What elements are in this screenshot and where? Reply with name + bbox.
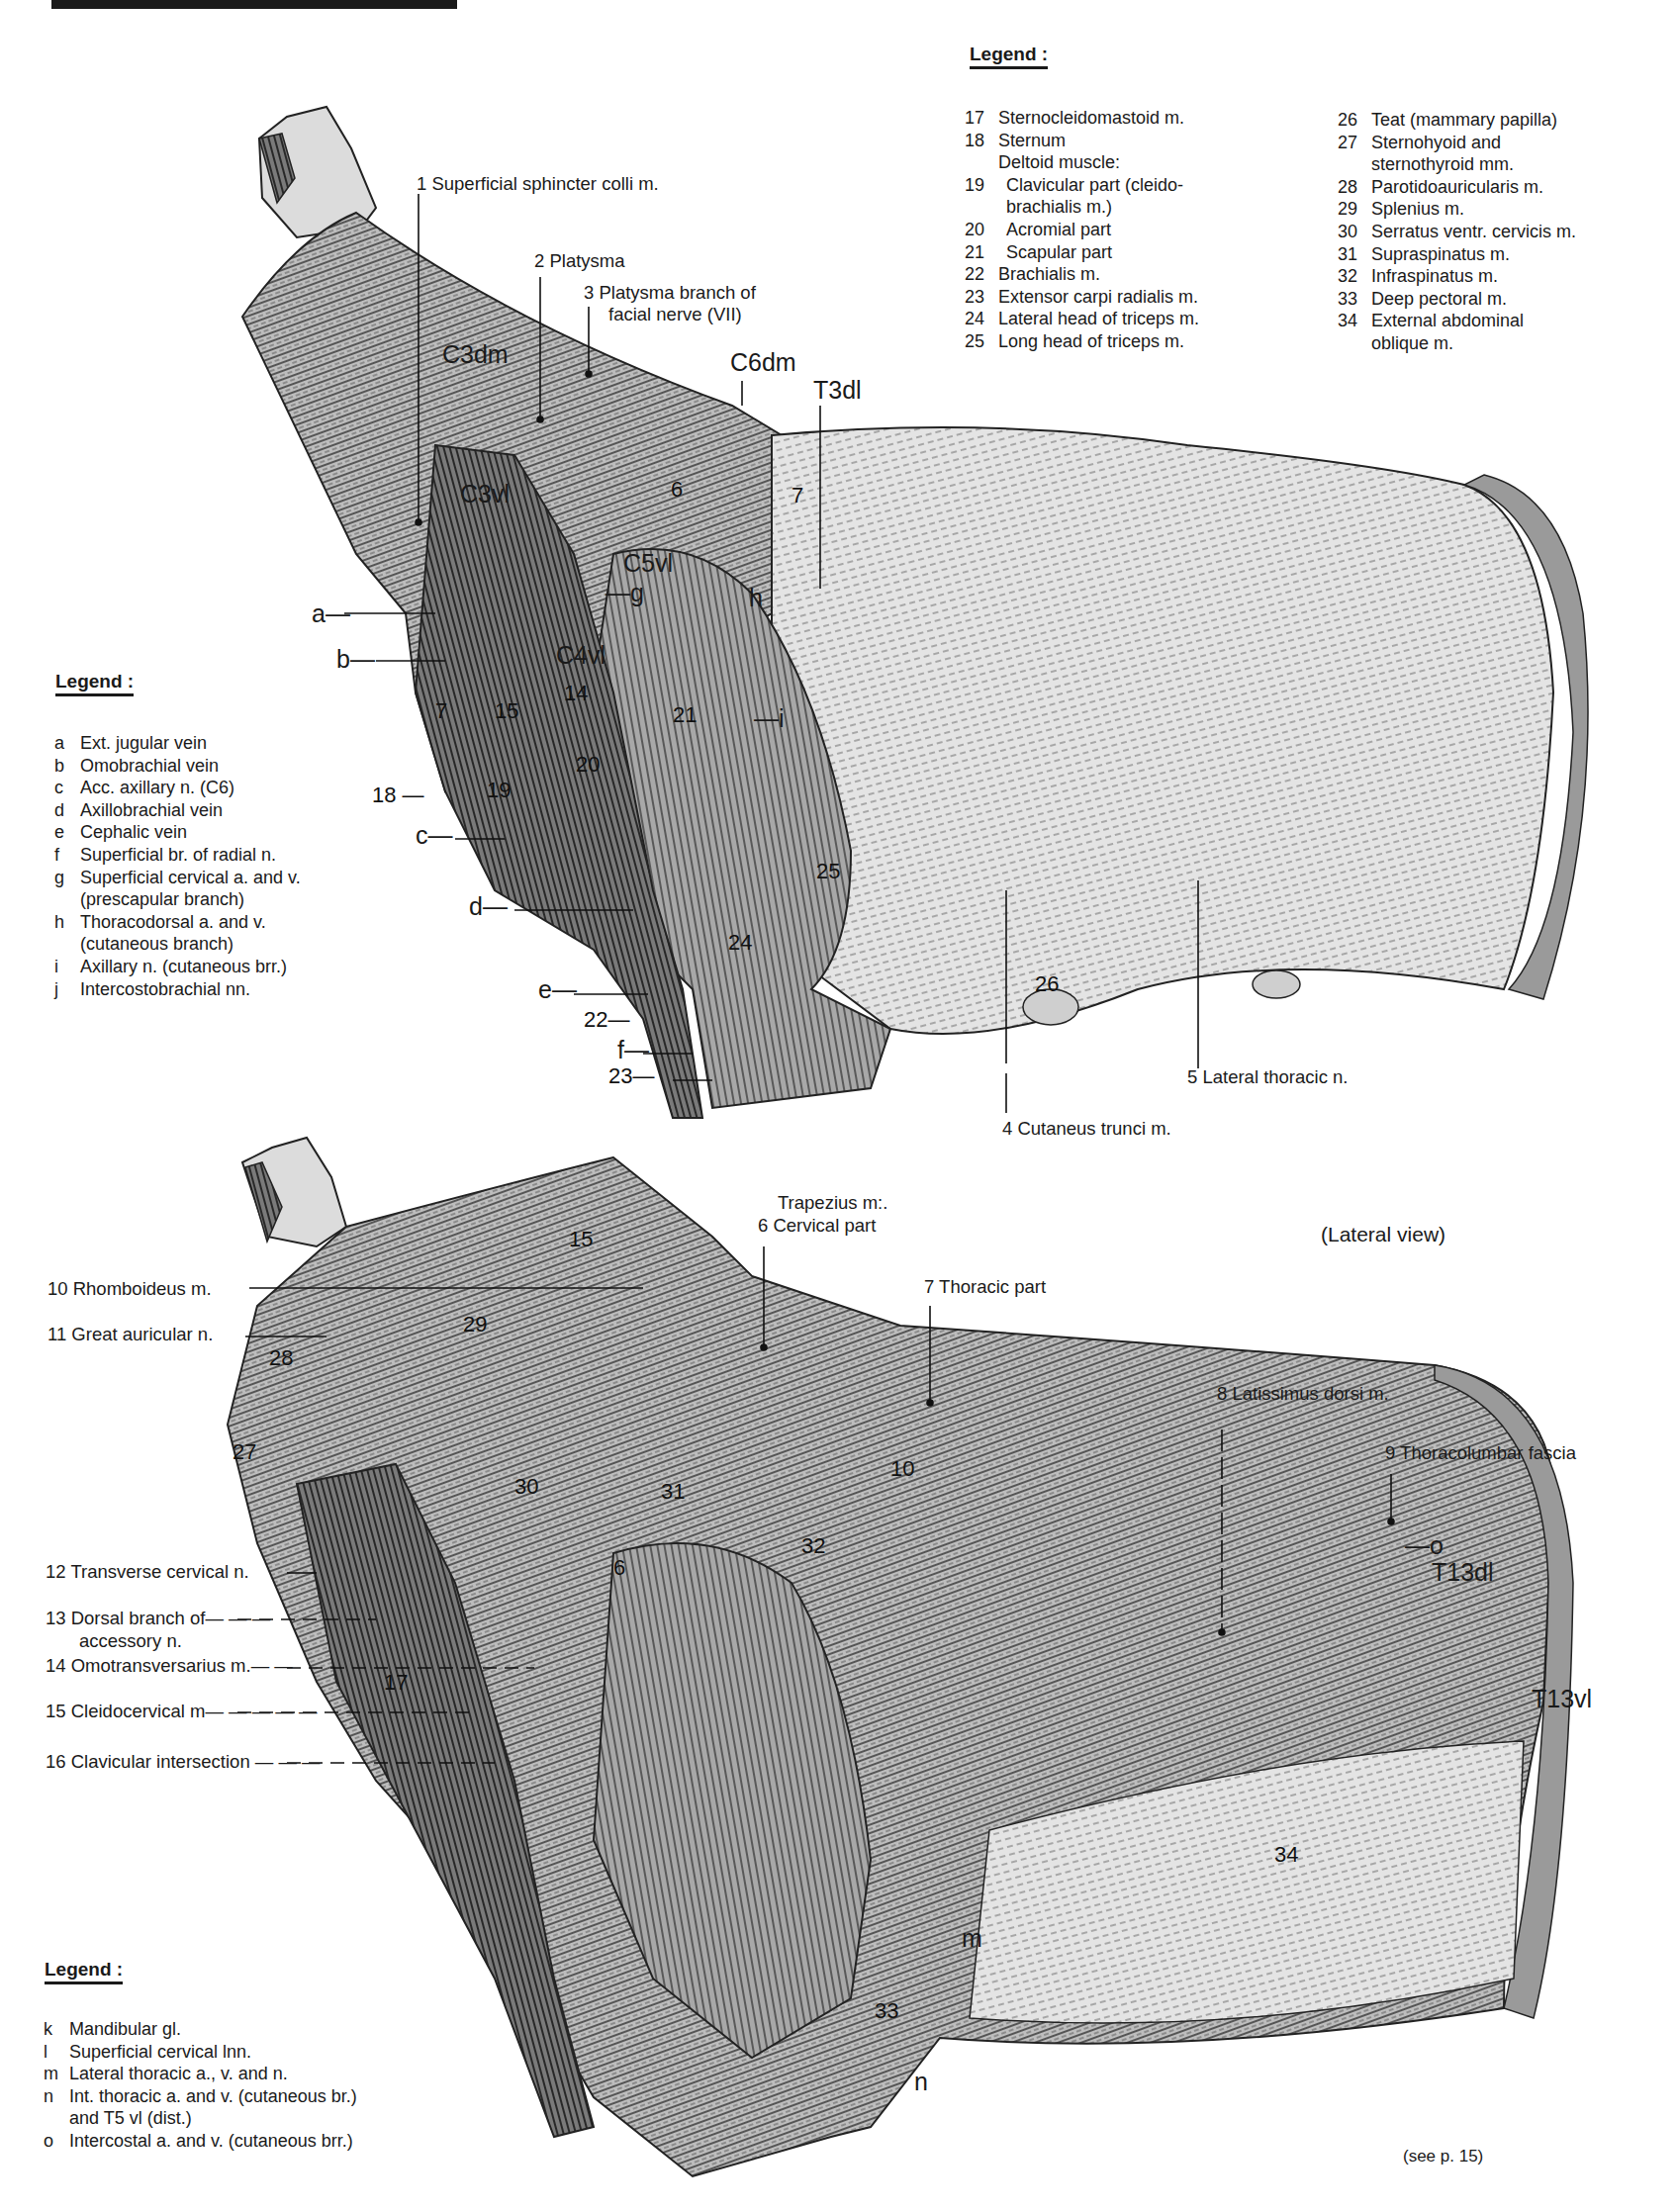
label-e: e— — [538, 975, 577, 1004]
legend-key — [1338, 332, 1371, 355]
legend-text: Cephalic vein — [80, 821, 187, 844]
label-13a: 13 Dorsal branch of— — — — [46, 1608, 270, 1629]
legend-text: (prescapular branch) — [80, 888, 244, 911]
legend-key: 26 — [1338, 109, 1371, 132]
label-19: 19 — [487, 778, 511, 803]
legend-text: External abdominal — [1371, 310, 1524, 332]
legend-key: d — [54, 799, 80, 822]
legend-glands: kMandibular gl. lSuperficial cervical ln… — [44, 2018, 357, 2153]
legend-text: Serratus ventr. cervicis m. — [1371, 221, 1576, 243]
label-6-fig2: 6 — [613, 1555, 625, 1581]
label-c3dm: C3dm — [442, 340, 509, 369]
legend-key: 31 — [1338, 243, 1371, 266]
legend-heading-glands: Legend : — [45, 1959, 123, 1984]
label-25: 25 — [816, 859, 840, 884]
label-17-fig2: 17 — [384, 1670, 408, 1696]
legend-key: 22 — [965, 263, 998, 286]
legend-text: (cutaneous branch) — [80, 933, 233, 956]
label-t3dl: T3dl — [813, 376, 862, 405]
label-3a: 3 Platysma branch of — [584, 282, 756, 304]
label-15-fig2: 15 — [569, 1227, 593, 1252]
legend-key — [54, 933, 80, 956]
legend-text: Clavicular part (cleido- — [998, 174, 1183, 197]
legend-text: Lateral thoracic a., v. and n. — [69, 2063, 288, 2085]
label-g: —g — [606, 579, 644, 607]
legend-key: i — [54, 956, 80, 978]
label-m: m — [962, 1924, 982, 1953]
legend-text: Deltoid muscle: — [998, 151, 1120, 174]
label-6: 6 — [671, 477, 683, 503]
label-17: 7 — [435, 698, 447, 724]
label-a: a— — [312, 599, 350, 628]
label-4: 4 Cutaneus trunci m. — [1002, 1118, 1171, 1140]
label-15: 15 Cleidocervical m— — — — — — [46, 1701, 317, 1722]
label-6-cervical-part: 6 Cervical part — [758, 1215, 876, 1237]
legend-text: Parotidoauricularis m. — [1371, 176, 1543, 199]
label-24: 24 — [728, 930, 752, 956]
label-o: —o — [1405, 1531, 1444, 1560]
legend-text: Superficial br. of radial n. — [80, 844, 276, 867]
label-3b: facial nerve (VII) — [608, 304, 742, 325]
label-11: 11 Great auricular n. — [47, 1324, 213, 1345]
label-c6dm: C6dm — [730, 348, 796, 377]
legend-key: k — [44, 2018, 69, 2041]
label-t13vl: T13vl — [1532, 1685, 1592, 1713]
legend-text: Lateral head of triceps m. — [998, 308, 1199, 330]
legend-heading-vessels: Legend : — [55, 671, 134, 696]
legend-key: 25 — [965, 330, 998, 353]
legend-key: 17 — [965, 107, 998, 130]
label-16: 16 Clavicular intersection — — — — [46, 1751, 321, 1773]
legend-text: and T5 vl (dist.) — [69, 2107, 192, 2130]
label-27: 27 — [233, 1439, 256, 1465]
legend-key — [54, 888, 80, 911]
label-f: f— — [617, 1036, 649, 1064]
label-c3vl: C3vl — [460, 480, 510, 508]
legend-text: Brachialis m. — [998, 263, 1100, 286]
legend-key: 24 — [965, 308, 998, 330]
legend-text: Thoracodorsal a. and v. — [80, 911, 266, 934]
legend-key: 18 — [965, 130, 998, 152]
label-33: 33 — [875, 1998, 898, 2024]
legend-key — [44, 2107, 69, 2130]
legend-key — [965, 151, 998, 174]
label-23: 23— — [608, 1063, 654, 1089]
label-d: d— — [469, 892, 508, 921]
legend-key: 33 — [1338, 288, 1371, 311]
legend-key: 20 — [965, 219, 998, 241]
legend-key: e — [54, 821, 80, 844]
legend-text: Sternohyoid and — [1371, 132, 1501, 154]
label-32: 32 — [801, 1533, 825, 1559]
label-t13dl: T13dl — [1432, 1558, 1494, 1587]
legend-muscles-col1: 17Sternocleidomastoid m. 18Sternum Delto… — [965, 107, 1199, 353]
label-7: 7 — [792, 483, 803, 508]
legend-key: j — [54, 978, 80, 1001]
legend-key: 28 — [1338, 176, 1371, 199]
legend-key: f — [54, 844, 80, 867]
legend-key — [965, 196, 998, 219]
label-1: 1 Superficial sphincter colli m. — [417, 173, 659, 195]
legend-key: c — [54, 777, 80, 799]
label-14: 14 — [564, 681, 588, 706]
legend-text: Acromial part — [998, 219, 1111, 241]
legend-text: Sternum — [998, 130, 1066, 152]
legend-muscles-col2: 26Teat (mammary papilla) 27Sternohyoid a… — [1338, 109, 1576, 355]
legend-key: n — [44, 2085, 69, 2108]
legend-text: Infraspinatus m. — [1371, 265, 1498, 288]
legend-key: o — [44, 2130, 69, 2153]
legend-key: b — [54, 755, 80, 778]
legend-key: m — [44, 2063, 69, 2085]
legend-text: Acc. axillary n. (C6) — [80, 777, 234, 799]
legend-key: 23 — [965, 286, 998, 309]
legend-text: Superficial cervical lnn. — [69, 2041, 251, 2064]
label-29: 29 — [463, 1312, 487, 1337]
legend-key — [1338, 153, 1371, 176]
legend-text: brachialis m.) — [998, 196, 1112, 219]
legend-text: oblique m. — [1371, 332, 1453, 355]
legend-key: 32 — [1338, 265, 1371, 288]
label-trapezius: Trapezius m:. — [778, 1192, 887, 1214]
legend-key: 30 — [1338, 221, 1371, 243]
label-13b: accessory n. — [79, 1630, 182, 1652]
legend-key: g — [54, 867, 80, 889]
legend-key: 21 — [965, 241, 998, 264]
legend-text: Mandibular gl. — [69, 2018, 181, 2041]
